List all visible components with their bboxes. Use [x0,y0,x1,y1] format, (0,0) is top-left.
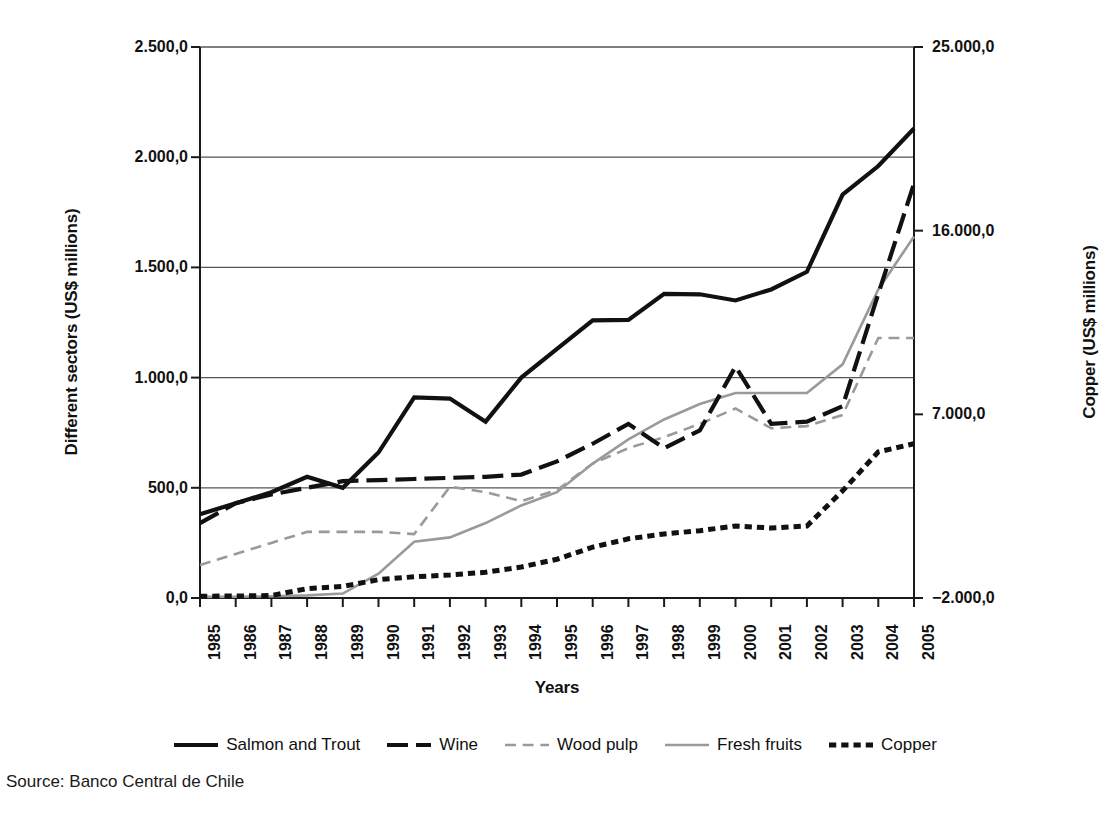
legend-swatch-icon [664,738,710,752]
legend-item-wood-pulp[interactable]: Wood pulp [504,735,638,755]
plot-area [0,0,1105,815]
legend-item-salmon-and-trout[interactable]: Salmon and Trout [173,735,360,755]
legend-label: Salmon and Trout [226,735,360,755]
legend-swatch-icon [504,738,550,752]
series-line-wine [200,184,914,523]
legend-label: Fresh fruits [717,735,802,755]
legend-item-copper[interactable]: Copper [828,735,937,755]
legend-swatch-icon [828,738,874,752]
legend-swatch-icon [386,738,432,752]
legend-item-wine[interactable]: Wine [386,735,478,755]
series-line-copper [200,444,914,596]
legend-swatch-icon [173,738,219,752]
series-line-fresh-fruits [200,237,914,597]
legend-item-fresh-fruits[interactable]: Fresh fruits [664,735,802,755]
series-line-salmon-and-trout [200,129,914,515]
legend-label: Wood pulp [557,735,638,755]
legend-label: Copper [881,735,937,755]
chart-legend: Salmon and TroutWineWood pulpFresh fruit… [120,728,990,762]
legend-label: Wine [439,735,478,755]
chart-figure: Different sectors (US$ millions) Copper … [0,0,1105,815]
series-line-wood-pulp [200,338,914,565]
source-note: Source: Banco Central de Chile [6,772,244,792]
